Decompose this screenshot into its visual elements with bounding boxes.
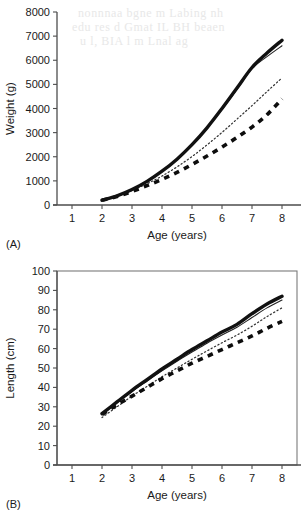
y-tick-label: 5000 [26,78,50,90]
x-tick-label: 8 [279,212,285,224]
panel-b-length-chart: 010203040506070809010012345678Age (years… [0,257,305,515]
y-tick-label: 0 [44,199,50,211]
x-tick-label: 6 [219,212,225,224]
y-tick-label: 90 [38,284,50,296]
x-tick-label: 1 [69,212,75,224]
x-tick-label: 5 [189,472,195,484]
y-axis-title: Weight (g) [4,82,16,135]
x-tick-label: 4 [159,472,165,484]
x-tick-label: 8 [279,472,285,484]
series-line-thick-dashed [102,99,282,200]
x-axis-title: Age (years) [147,229,207,241]
y-tick-label: 2000 [26,151,50,163]
y-tick-label: 3000 [26,127,50,139]
panel-tag: (B) [6,498,21,510]
series-line-thick-solid [102,296,282,413]
y-tick-label: 6000 [26,54,50,66]
x-tick-label: 5 [189,212,195,224]
x-tick-label: 6 [219,472,225,484]
y-axis-title: Length (cm) [4,337,16,399]
x-tick-label: 3 [129,472,135,484]
length-vs-age-plot: 010203040506070809010012345678Age (years… [0,257,305,515]
panel-a-weight-chart: 0100020003000400050006000700080001234567… [0,0,305,258]
y-tick-label: 30 [38,401,50,413]
y-tick-label: 50 [38,362,50,374]
x-tick-label: 4 [159,212,165,224]
x-tick-label: 7 [249,212,255,224]
panel-tag: (A) [6,238,21,250]
y-tick-label: 70 [38,323,50,335]
x-tick-label: 3 [129,212,135,224]
y-tick-label: 60 [38,343,50,355]
series-line-thin-solid [102,46,282,200]
y-tick-label: 100 [32,265,50,277]
x-tick-label: 2 [99,472,105,484]
y-tick-label: 80 [38,304,50,316]
x-tick-label: 7 [249,472,255,484]
x-axis-title: Age (years) [147,489,207,501]
y-tick-label: 40 [38,381,50,393]
y-tick-label: 8000 [26,6,50,18]
weight-vs-age-plot: 0100020003000400050006000700080001234567… [0,0,305,258]
series-line-thin-solid [102,300,282,414]
plot-frame [57,271,297,465]
y-tick-label: 7000 [26,30,50,42]
series-line-thick-solid [102,40,282,200]
series-line-dotted [102,78,282,200]
series-line-thick-dashed [102,321,282,414]
x-tick-label: 1 [69,472,75,484]
y-tick-label: 4000 [26,103,50,115]
y-tick-label: 1000 [26,175,50,187]
x-tick-label: 2 [99,212,105,224]
y-tick-label: 10 [38,440,50,452]
growth-charts-figure: nonnnaa bgne m Labing nh edu res d Gmat … [0,0,305,515]
y-tick-label: 20 [38,420,50,432]
y-tick-label: 0 [44,459,50,471]
